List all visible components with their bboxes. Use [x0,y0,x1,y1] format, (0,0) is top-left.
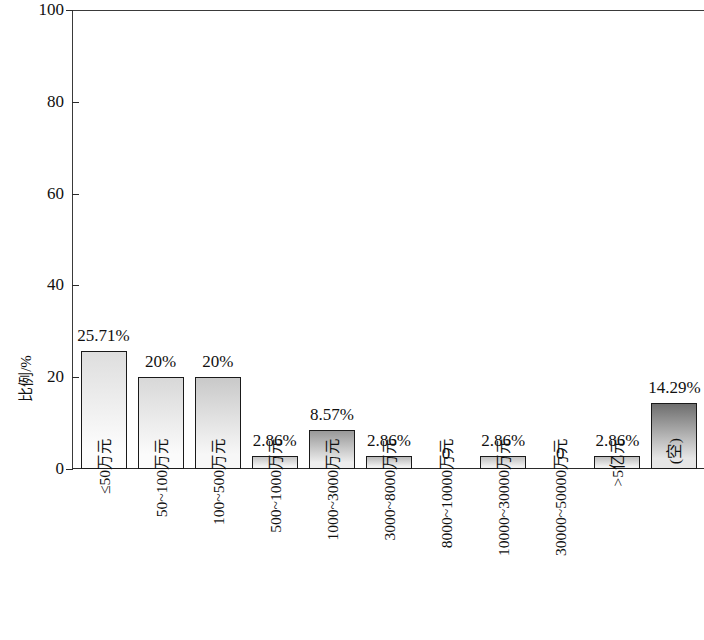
x-category-label: 1000~3000万元 [325,438,340,638]
bar-value-label: 8.57% [277,406,387,424]
x-category-label: 10000~30000万元 [496,438,511,638]
x-category-label: 8000~10000万元 [439,438,454,638]
x-category-label: 30000~50000万元 [553,438,568,638]
bar-value-label: 20% [163,353,273,371]
x-category-label: (空) [667,438,682,638]
x-category-label: ≤50万元 [97,438,112,638]
bar-value-label: 25.71% [49,327,159,345]
x-category-label: 500~1000万元 [268,438,283,638]
bar-chart: 比例/% 020406080100 25.71%≤50万元20%50~100万元… [0,0,704,640]
x-category-label: >5亿元 [610,438,625,638]
bars-layer: 25.71%≤50万元20%50~100万元20%100~500万元2.86%5… [0,0,704,640]
x-category-label: 100~500万元 [211,438,226,638]
x-category-label: 50~100万元 [154,438,169,638]
bar-value-label: 14.29% [619,379,704,397]
x-category-label: 3000~8000万元 [382,438,397,638]
